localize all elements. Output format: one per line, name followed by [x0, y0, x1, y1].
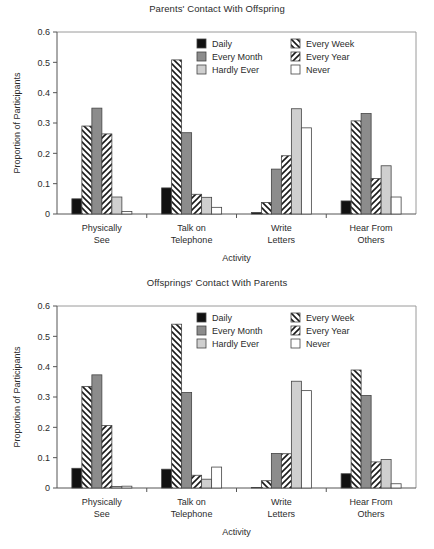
bar — [291, 381, 301, 488]
bar — [361, 395, 371, 488]
x-category-label: Write — [271, 223, 292, 233]
bar — [82, 386, 92, 488]
bar — [72, 468, 82, 488]
bar — [301, 391, 311, 488]
bar — [281, 454, 291, 488]
x-category-label: Letters — [268, 235, 296, 245]
bar — [192, 475, 202, 488]
legend-swatch — [291, 39, 300, 48]
bar — [291, 109, 301, 214]
bar — [192, 194, 202, 214]
y-tick-label: 0.4 — [37, 88, 50, 98]
legend-swatch — [291, 52, 300, 61]
bar — [251, 212, 261, 214]
bar — [251, 487, 261, 488]
legend-label: Never — [306, 65, 330, 75]
y-tick-label: 0 — [45, 209, 50, 219]
y-tick-label: 0.6 — [37, 301, 50, 311]
legend-label: Every Month — [212, 326, 263, 336]
legend-swatch — [197, 313, 206, 322]
legend-label: Every Year — [306, 52, 350, 62]
bar — [92, 108, 102, 214]
x-category-label: Physically — [82, 497, 123, 507]
legend-swatch — [197, 326, 206, 335]
bar — [371, 462, 381, 488]
legend-swatch — [197, 339, 206, 348]
legend-label: Every Week — [306, 313, 355, 323]
y-tick-label: 0.2 — [37, 423, 50, 433]
bar — [162, 188, 172, 214]
bar — [391, 484, 401, 488]
x-category-label: See — [94, 235, 110, 245]
legend-swatch — [291, 65, 300, 74]
bar — [271, 453, 281, 488]
x-category-label: See — [94, 509, 110, 519]
bar — [212, 467, 222, 488]
x-category-label: Telephone — [171, 235, 213, 245]
bar — [172, 324, 182, 488]
x-axis-title: Activity — [222, 253, 251, 263]
chart-panel-offsprings: Offsprings' Contact With Parents 00.10.2… — [0, 274, 434, 548]
legend-label: Daily — [212, 313, 233, 323]
x-category-label: Letters — [268, 509, 296, 519]
legend-label: Every Week — [306, 39, 355, 49]
bar — [92, 375, 102, 488]
bar — [341, 474, 351, 488]
bar — [381, 166, 391, 214]
bar — [112, 197, 122, 214]
legend-label: Hardly Ever — [212, 339, 259, 349]
chart-svg-parents: 00.10.20.30.40.50.6Proportion of Partici… — [0, 0, 434, 274]
x-category-label: Hear From — [350, 497, 393, 507]
chart-panel-parents: Parents' Contact With Offspring 00.10.20… — [0, 0, 434, 274]
bar — [122, 212, 132, 214]
y-tick-label: 0.1 — [37, 179, 50, 189]
chart-svg-offsprings: 00.10.20.30.40.50.6Proportion of Partici… — [0, 274, 434, 548]
bar — [391, 197, 401, 214]
bar — [261, 202, 271, 214]
y-tick-label: 0.2 — [37, 149, 50, 159]
legend-swatch — [291, 339, 300, 348]
bar — [202, 197, 212, 214]
bar — [361, 114, 371, 214]
x-category-label: Hear From — [350, 223, 393, 233]
bar — [261, 481, 271, 488]
bar — [102, 134, 112, 214]
legend-label: Every Month — [212, 52, 263, 62]
bar — [102, 426, 112, 488]
bar — [122, 486, 132, 488]
bar — [82, 126, 92, 214]
bar — [351, 370, 361, 488]
bar — [381, 459, 391, 488]
x-category-label: Others — [358, 235, 386, 245]
bar — [72, 199, 82, 214]
legend-label: Never — [306, 339, 330, 349]
bar — [301, 128, 311, 214]
bar — [112, 486, 122, 488]
x-axis-title: Activity — [222, 527, 251, 537]
legend-swatch — [197, 39, 206, 48]
bar — [371, 179, 381, 214]
bar — [351, 121, 361, 214]
y-axis-title: Proportion of Participants — [12, 72, 22, 174]
x-category-label: Telephone — [171, 509, 213, 519]
legend-label: Daily — [212, 39, 233, 49]
y-tick-label: 0.4 — [37, 362, 50, 372]
x-category-label: Physically — [82, 223, 123, 233]
y-tick-label: 0 — [45, 483, 50, 493]
y-tick-label: 0.3 — [37, 118, 50, 128]
y-tick-label: 0.5 — [37, 332, 50, 342]
y-axis-title: Proportion of Participants — [12, 346, 22, 448]
bar — [212, 207, 222, 214]
bar — [162, 469, 172, 488]
x-category-label: Others — [358, 509, 386, 519]
legend-label: Every Year — [306, 326, 350, 336]
legend-swatch — [197, 52, 206, 61]
bar — [281, 156, 291, 214]
bar — [341, 201, 351, 214]
x-category-label: Talk on — [177, 497, 206, 507]
legend-swatch — [197, 65, 206, 74]
bar — [271, 169, 281, 214]
legend-swatch — [291, 326, 300, 335]
bar — [202, 479, 212, 488]
x-category-label: Write — [271, 497, 292, 507]
